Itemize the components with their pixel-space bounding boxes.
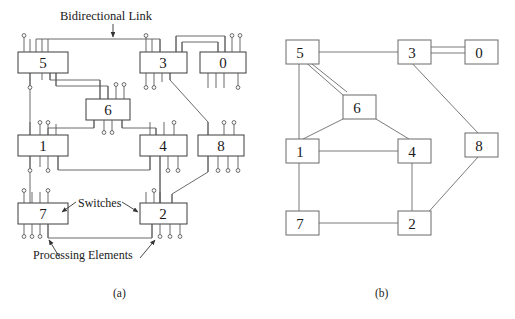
panel-a-group (18, 24, 246, 258)
pe-stubs-bottom-8 (208, 156, 240, 172)
pe-stubs-bottom-7 (22, 224, 48, 238)
switch-a-7-label: 7 (39, 206, 47, 222)
link-5-6 (50, 73, 108, 99)
node-b-6-label: 6 (353, 100, 361, 116)
figure-canvas: 5 3 0 6 1 4 8 7 2 5 3 0 6 1 4 8 7 2 (0, 0, 515, 319)
pe-stubs-bottom-2 (152, 224, 182, 238)
edge-b-3-8 (409, 60, 478, 133)
switch-a-1-label: 1 (39, 138, 47, 154)
switch-a-4[interactable] (140, 121, 187, 203)
link-7-2 (48, 224, 152, 238)
switch-a-8-label: 8 (217, 138, 225, 154)
node-b-5-label: 5 (296, 45, 304, 61)
node-labels: 5 3 0 6 1 4 8 7 2 (296, 45, 483, 232)
pe-stubs-top-3 (144, 34, 182, 52)
link-1-4 (58, 156, 150, 170)
switch-a-3-label: 3 (159, 55, 167, 71)
node-b-0-label: 0 (475, 45, 483, 61)
pe-stubs-bottom-0 (208, 73, 240, 89)
processing-elements-annotation: Processing Elements (33, 248, 133, 263)
link-6-1 (48, 120, 94, 135)
edge-b-6-1 (303, 119, 343, 139)
bidirectional-link-annotation: Bidirectional Link (60, 9, 152, 24)
link-6-4 (122, 120, 156, 135)
pe-stubs-bottom-3 (144, 73, 170, 89)
link-3-8 (170, 73, 208, 135)
node-b-1-label: 1 (296, 144, 304, 160)
pe-stubs-bottom-1 (28, 156, 58, 172)
pe-stubs-bottom-4 (150, 156, 180, 203)
node-b-8-label: 8 (475, 138, 483, 154)
node-b-2-label: 2 (408, 216, 416, 232)
pe-stubs-top-6 (100, 80, 126, 99)
pe-stubs-top-8 (208, 121, 236, 135)
switch-a-2-label: 2 (159, 206, 167, 222)
edge-b-6-4 (376, 119, 409, 139)
edge-b-3-0 (431, 47, 465, 53)
switch-a-5-label: 5 (39, 55, 47, 71)
link-8-2 (172, 156, 208, 203)
pe-stubs-bottom-6 (94, 120, 122, 134)
edge-b-5-6 (303, 60, 347, 95)
pe-stubs-top-5 (22, 34, 48, 52)
switch-a-6-label: 6 (104, 102, 112, 118)
switches-annotation: Switches (78, 196, 121, 211)
node-b-4-label: 4 (408, 144, 416, 160)
node-b-3-label: 3 (408, 45, 416, 61)
edge-b-8-2 (424, 157, 478, 217)
panel-b-group (286, 40, 498, 235)
link-5-3 (36, 39, 160, 52)
panel-a-caption: (a) (113, 287, 126, 299)
switch-a-4-label: 4 (159, 138, 167, 154)
node-b-7-label: 7 (296, 216, 304, 232)
panel-b-caption: (b) (375, 287, 388, 299)
pe-stubs-top-7 (22, 189, 50, 203)
pe-stubs-bottom-5 (28, 73, 56, 89)
switch-a-0-label: 0 (219, 55, 227, 71)
pe-stubs-top-2 (146, 189, 172, 203)
network-topology-figure: 5 3 0 6 1 4 8 7 2 5 3 0 6 1 4 8 7 2 Bidi… (0, 0, 515, 319)
